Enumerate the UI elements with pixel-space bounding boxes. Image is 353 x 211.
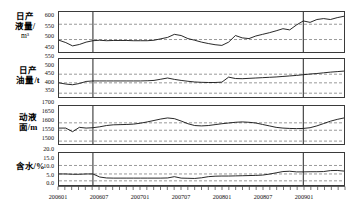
panel-4-ytick-0: 20.0 [33, 146, 54, 152]
panel-1-ytick-0: 600 [36, 12, 54, 18]
panel-4-series-line [59, 170, 344, 178]
panel-3-ytick-1: 1650 [34, 108, 54, 114]
panel-2-ytick-1: 500 [36, 62, 54, 68]
x-axis-label-5: 200807 [243, 193, 283, 200]
panel-3-ytick-4: 1500 [34, 135, 54, 141]
panel-4-ytick-2: 10.0 [33, 163, 54, 169]
panel-4-ytick-3: 5.0 [33, 172, 54, 178]
panel-2-ytick-4: 350 [36, 87, 54, 93]
panel-3-ytick-3: 1550 [34, 126, 54, 132]
panel-2-ytick-3: 400 [36, 79, 54, 85]
x-axis-label-1: 200607 [79, 193, 119, 200]
panel-3-series-line [59, 118, 344, 132]
panel-2-ytick-0: 550 [36, 53, 54, 59]
panel-2-ytick-2: 450 [36, 70, 54, 76]
x-axis-label-3: 200707 [161, 193, 201, 200]
panel-1-plot-area [58, 11, 345, 53]
x-axis-label-2: 200701 [120, 193, 160, 200]
panel-2-plot-area [58, 58, 345, 98]
x-axis-label-6: 200901 [284, 193, 324, 200]
panel-1-ytick-2: 500 [36, 33, 54, 39]
panel-3-ytick-2: 1600 [34, 117, 54, 123]
panel-3-plot-area [58, 105, 345, 145]
x-axis-labels: 2006012006072007012007072008012008072009… [0, 193, 353, 205]
x-axis-label-4: 200801 [202, 193, 242, 200]
panel-1-series-line [59, 16, 344, 46]
panel-1-ytick-1: 550 [36, 23, 54, 29]
x-axis-label-0: 200601 [38, 193, 78, 200]
panel-4-ytick-1: 15.0 [33, 155, 54, 161]
panel-3-ytick-0: 1700 [34, 99, 54, 105]
panel-1-ytick-3: 450 [36, 44, 54, 50]
panel-4-plot-area [58, 152, 345, 186]
chart-root: 日产 液量/ m³ 600 550 500 450 日产 油量/t 550 50… [0, 0, 353, 211]
